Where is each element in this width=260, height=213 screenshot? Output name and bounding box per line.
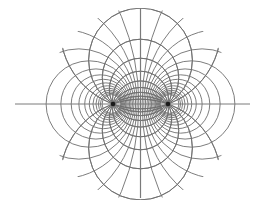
diagram-canvas	[0, 0, 260, 213]
equipotential-circles	[0, 0, 260, 213]
focus-point	[166, 102, 171, 107]
focus-point	[111, 102, 116, 107]
bipolar-field-diagram	[0, 0, 260, 213]
